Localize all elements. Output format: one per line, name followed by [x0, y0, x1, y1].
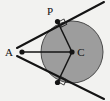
point-p-label: P — [47, 5, 53, 17]
point-a-dot — [19, 49, 24, 54]
point-c-dot — [69, 49, 74, 54]
point-a-label: A — [5, 46, 13, 58]
point-q-dot — [55, 80, 60, 85]
point-p-dot — [55, 19, 60, 24]
point-c-label: C — [77, 46, 84, 58]
figure-canvas: A P C — [0, 0, 110, 101]
geometry-figure: A P C — [0, 0, 110, 101]
